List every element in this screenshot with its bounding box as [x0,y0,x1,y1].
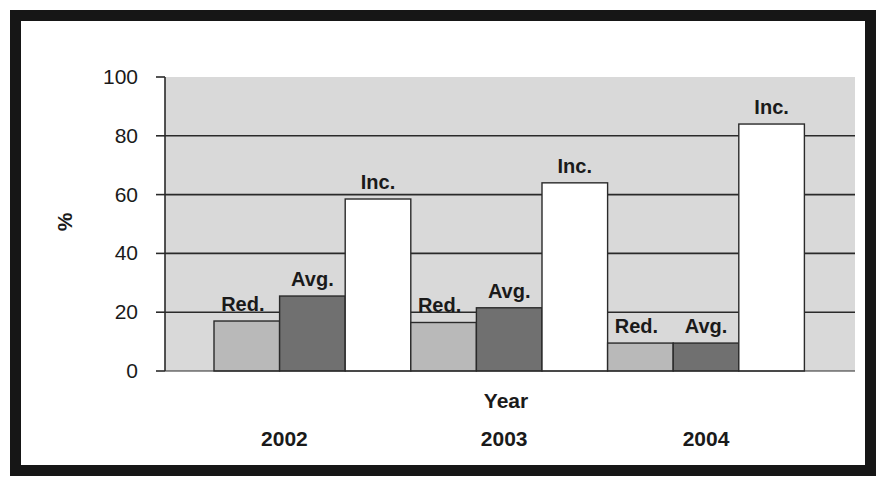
bar-red-2004 [608,343,674,371]
bar-inc-2002 [345,199,411,371]
bar-chart: 020406080100 Red.Avg.Inc.Red.Avg.Inc.Red… [0,0,878,480]
x-axis-title: Year [484,389,528,412]
y-tick-labels: 020406080100 [103,65,138,382]
x-tick-label: 2002 [261,427,308,450]
bar-avg-2002 [280,296,346,371]
data-label: Inc. [361,171,395,193]
data-label: Red. [418,294,461,316]
bar-avg-2003 [476,308,542,371]
y-tick-label: 20 [115,300,138,323]
bar-red-2003 [411,322,477,371]
y-tick-label: 80 [115,124,138,147]
data-label: Red. [615,315,658,337]
data-label: Red. [221,293,264,315]
data-label: Avg. [291,268,334,290]
data-label: Inc. [754,96,788,118]
bar-inc-2003 [542,183,608,371]
data-label: Avg. [685,315,728,337]
y-tick-label: 100 [103,65,138,88]
data-label: Inc. [558,155,592,177]
bar-inc-2004 [739,124,805,371]
y-tick-label: 60 [115,183,138,206]
y-axis-title: % [53,212,76,231]
y-tick-label: 40 [115,241,138,264]
data-label: Avg. [488,280,531,302]
bar-avg-2004 [673,343,739,371]
x-tick-labels: 200220032004 [261,427,730,450]
x-tick-label: 2004 [683,427,730,450]
y-tick-label: 0 [126,359,138,382]
x-tick-label: 2003 [481,427,528,450]
bar-red-2002 [214,321,280,371]
